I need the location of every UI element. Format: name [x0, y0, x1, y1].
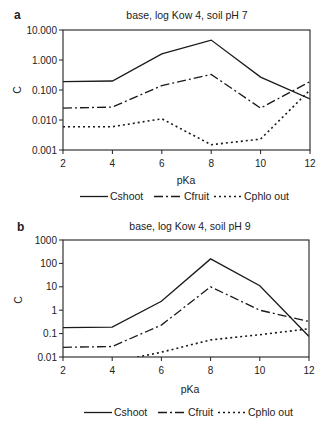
x-tick-label: 2: [60, 158, 66, 169]
panel-label: b: [17, 220, 24, 234]
legend-label: Cphlo out: [244, 190, 289, 202]
legend-item-cshoot: Cshoot: [80, 190, 143, 202]
x-tick-label: 12: [304, 158, 316, 169]
x-tick-label: 10: [254, 365, 266, 376]
x-axis-label: pKa: [181, 383, 200, 395]
legend-label: Cshoot: [114, 406, 147, 418]
series-line-cfruit: [63, 287, 309, 348]
x-tick-label: 8: [208, 365, 214, 376]
figure-canvas: a base, log Kow 4, soil pH 7 0.0010.0100…: [0, 0, 332, 429]
series-line-cphlo-out: [63, 329, 309, 367]
x-tick-label: 2: [60, 365, 66, 376]
legend: CshootCfruitCphlo out: [80, 190, 289, 202]
chart-title: base, log Kow 4, soil pH 7: [126, 9, 248, 21]
legend-label: Cshoot: [110, 190, 143, 202]
y-tick-label: 0.01: [38, 352, 58, 363]
legend-item-cshoot: Cshoot: [84, 406, 147, 418]
x-tick-label: 4: [109, 365, 115, 376]
series-line-cphlo-out: [63, 90, 310, 145]
y-tick-label: 0.001: [32, 145, 57, 156]
plot-frame: [63, 30, 310, 150]
chart-panel-a: a base, log Kow 4, soil pH 7 0.0010.0100…: [11, 8, 316, 202]
chart-panel-b: b base, log Kow 4, soil pH 9 0.010.11101…: [12, 220, 315, 418]
x-tick-label: 6: [159, 365, 165, 376]
y-tick-label: 0.010: [32, 115, 57, 126]
y-axis-label: C: [12, 296, 24, 304]
y-tick-label: 100: [40, 258, 57, 269]
x-tick-label: 12: [303, 365, 315, 376]
legend-label: Cphlo out: [248, 406, 293, 418]
y-tick-label: 1.000: [32, 55, 57, 66]
chart-title: base, log Kow 4, soil pH 9: [129, 220, 251, 232]
y-tick-label: 1: [51, 305, 57, 316]
x-tick-label: 8: [208, 158, 214, 169]
x-tick-label: 6: [159, 158, 165, 169]
figure: a base, log Kow 4, soil pH 7 0.0010.0100…: [0, 0, 332, 429]
y-axis-label: C: [11, 86, 23, 94]
y-tick-label: 0.1: [43, 328, 57, 339]
y-tick-label: 1000: [35, 235, 58, 246]
y-tick-label: 0.100: [32, 85, 57, 96]
legend-label: Cfruit: [184, 190, 209, 202]
legend-item-cfruit: Cfruit: [158, 406, 213, 418]
series-line-cfruit: [63, 74, 310, 108]
series-line-cshoot: [63, 40, 310, 99]
legend-item-cphlo-out: Cphlo out: [214, 190, 289, 202]
legend-item-cfruit: Cfruit: [154, 190, 209, 202]
legend-label: Cfruit: [188, 406, 213, 418]
legend-item-cphlo-out: Cphlo out: [218, 406, 293, 418]
y-tick-label: 10: [46, 281, 58, 292]
x-tick-label: 4: [110, 158, 116, 169]
panel-label: a: [14, 8, 21, 22]
y-tick-label: 10.000: [26, 25, 57, 36]
legend: CshootCfruitCphlo out: [84, 406, 293, 418]
x-axis-label: pKa: [177, 174, 196, 186]
plot-area: 0.010.1110100100024681012: [35, 235, 315, 377]
plot-area: 0.0010.0100.1001.00010.00024681012: [26, 25, 316, 170]
x-tick-label: 10: [255, 158, 267, 169]
series-line-cshoot: [63, 259, 309, 337]
